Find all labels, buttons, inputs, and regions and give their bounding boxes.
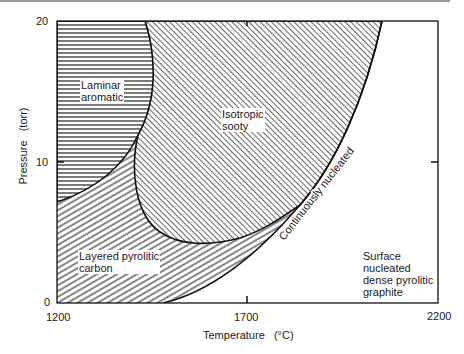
y-tick-0: 0 [44,296,50,308]
label-laminar-line1: Laminar [81,79,123,91]
label-layered-line1: Layered pyrolitic [79,250,159,262]
y-tick-20: 20 [36,15,48,27]
label-isotropic-line1: Isotropic [222,108,264,120]
x-tick-1700: 1700 [234,311,258,323]
phase-diagram-plot: Continuously nucleated [0,0,464,354]
label-surface-line2: nucleated [363,262,433,274]
label-isotropic: Isotropic sooty [221,108,265,132]
label-surface-line1: Surface [363,250,433,262]
label-surface-line3: dense pyrolitic [363,274,433,286]
y-tick-10: 10 [36,156,48,168]
label-surface: Surface nucleated dense pyrolitic graphi… [362,250,434,298]
label-surface-line4: graphite [363,286,433,298]
label-isotropic-line2: sooty [222,120,264,132]
label-layered-line2: carbon [79,262,159,274]
y-axis-title: Pressure (torr) [17,91,29,201]
label-layered: Layered pyrolitic carbon [78,250,160,274]
x-tick-1200: 1200 [46,311,70,323]
x-tick-2200: 2200 [427,310,451,322]
label-laminar: Laminar aromatic [80,79,124,103]
x-axis-title: Temperature (°C) [203,329,294,341]
label-laminar-line2: aromatic [81,91,123,103]
